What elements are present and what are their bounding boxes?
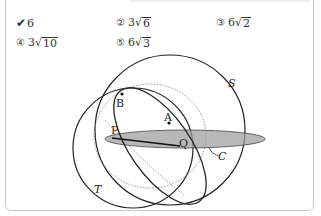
label-q: Q [179, 137, 188, 150]
label-b: B [116, 97, 124, 110]
label-p: P [111, 124, 119, 137]
point-b [120, 92, 123, 95]
c-pointer [209, 148, 218, 156]
sphere-figure: S T A B P Q C [0, 0, 321, 216]
label-t: T [94, 183, 103, 196]
label-c: C [218, 150, 227, 163]
label-a: A [163, 111, 173, 124]
label-s: S [228, 77, 236, 90]
